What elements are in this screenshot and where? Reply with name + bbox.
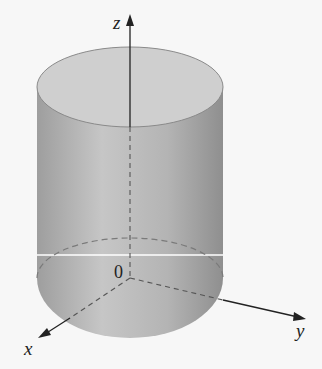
y-axis-label: y [296,320,304,342]
z-arrow-icon [126,14,134,26]
z-axis-label: z [113,12,120,34]
origin-label: 0 [114,262,123,283]
y-axis-visible [223,300,298,317]
cylinder-diagram [0,0,322,369]
x-arrow-icon [38,328,51,338]
x-axis-label: x [24,338,32,360]
diagram-canvas: z x y 0 [0,0,322,369]
